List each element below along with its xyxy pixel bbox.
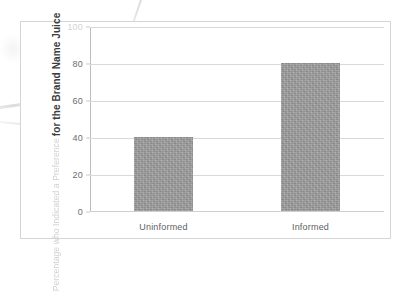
- x-axis-category-label: Uninformed: [139, 222, 188, 232]
- y-axis-tick-mark: [86, 138, 90, 139]
- y-axis-tick-label: 20: [73, 170, 83, 180]
- y-axis-tick-label: 60: [73, 96, 83, 106]
- gridline: [90, 27, 384, 28]
- x-axis-line: [90, 211, 384, 212]
- y-axis-tick-mark: [86, 175, 90, 176]
- x-axis-category-label: Informed: [292, 222, 329, 232]
- y-axis-title: Percentage who Indicated a Preference fo…: [42, 46, 70, 258]
- y-axis-tick-label: 100: [67, 22, 83, 32]
- y-axis-tick-label: 0: [78, 207, 83, 217]
- y-axis-tick-mark: [86, 101, 90, 102]
- y-axis-tick-mark: [86, 27, 90, 28]
- y-axis-title-line-2: for the Brand Name Juice: [51, 13, 62, 137]
- y-axis-tick-label: 80: [73, 59, 83, 69]
- bar: [281, 63, 340, 211]
- y-axis-tick-mark: [86, 64, 90, 65]
- y-axis-tick-label: 40: [73, 133, 83, 143]
- y-axis-tick-mark: [86, 212, 90, 213]
- plot-area: 020406080100 UninformedInformed: [90, 27, 384, 212]
- y-axis-line: [90, 27, 91, 212]
- chart-frame: Percentage who Indicated a Preference fo…: [20, 21, 391, 239]
- y-axis-title-line-1: Percentage who Indicated a Preference: [51, 138, 61, 291]
- bar: [134, 137, 193, 211]
